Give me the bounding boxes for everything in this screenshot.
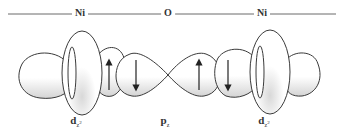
pz-left-lobe [116, 53, 168, 96]
right-dz2-orbital [215, 30, 320, 114]
orbital-label-sub: z [167, 122, 170, 128]
right-dz2-torus-hole [256, 46, 264, 98]
orbital-label-sup: 2 [267, 120, 270, 125]
orbital-label-right-dz2: dz2 [258, 114, 269, 131]
atom-label-o: O [161, 7, 175, 19]
orbital-label-left-dz2: dz2 [70, 114, 81, 131]
orbital-label-pz: pz [161, 114, 170, 131]
orbital-diagram: Ni O Ni dz2 pz dz2 [0, 0, 352, 135]
orbital-label-sup: 2 [79, 120, 82, 125]
left-dz2-torus-hole [68, 47, 76, 99]
atom-label-ni-right: Ni [254, 7, 270, 19]
oxygen-pz-orbital [116, 53, 220, 96]
orbital-diagram-svg [0, 0, 352, 135]
pz-right-lobe [168, 53, 220, 96]
atom-label-ni-left: Ni [72, 7, 88, 19]
right-dz2-outer-lobe [286, 53, 320, 96]
